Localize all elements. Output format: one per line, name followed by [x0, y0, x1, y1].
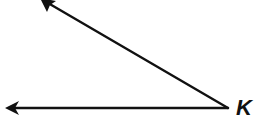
lower-ray: [5, 101, 228, 115]
vertex-label-k: K: [236, 97, 252, 119]
angle-diagram: [0, 0, 269, 136]
upper-ray: [40, 0, 228, 108]
